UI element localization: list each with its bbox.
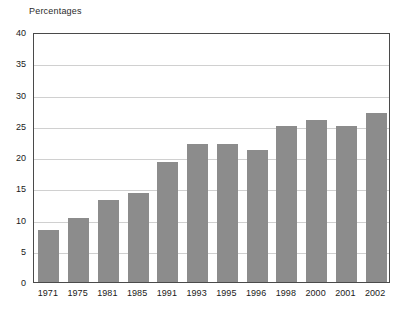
bars-layer [34,34,389,282]
y-tick-label: 10 [16,216,26,226]
y-tick-label: 5 [21,247,26,257]
bar [98,200,119,283]
x-tick-label: 1985 [127,288,147,298]
x-tick-label: 1971 [38,288,58,298]
bar [187,144,208,282]
y-tick-label: 20 [16,153,26,163]
x-tick-label: 1981 [97,288,117,298]
y-tick-label: 25 [16,122,26,132]
y-tick-label: 0 [21,278,26,288]
plot-area [33,33,390,283]
x-tick-label: 2002 [365,288,385,298]
y-tick-label: 40 [16,28,26,38]
bar-chart: Percentages 0510152025303540 19711975198… [0,0,405,312]
bar [366,113,387,282]
bar [306,120,327,283]
x-tick-label: 1991 [157,288,177,298]
x-tick-label: 1993 [187,288,207,298]
y-axis: 0510152025303540 [0,0,33,312]
x-tick-label: 2000 [306,288,326,298]
y-tick-label: 35 [16,59,26,69]
bar [276,126,297,282]
x-tick-label: 1975 [68,288,88,298]
y-tick-label: 15 [16,184,26,194]
bar [38,230,59,282]
x-tick-label: 2001 [335,288,355,298]
x-tick-label: 1998 [276,288,296,298]
chart-title: Percentages [29,6,82,16]
y-tick-label: 30 [16,91,26,101]
bar [157,162,178,282]
bar [68,218,89,282]
x-tick-label: 1995 [216,288,236,298]
x-tick-label: 1996 [246,288,266,298]
x-axis: 1971197519811985199119931995199619982000… [33,288,390,308]
bar [336,126,357,282]
bar [217,144,238,282]
bar [128,193,149,282]
bar [247,150,268,282]
